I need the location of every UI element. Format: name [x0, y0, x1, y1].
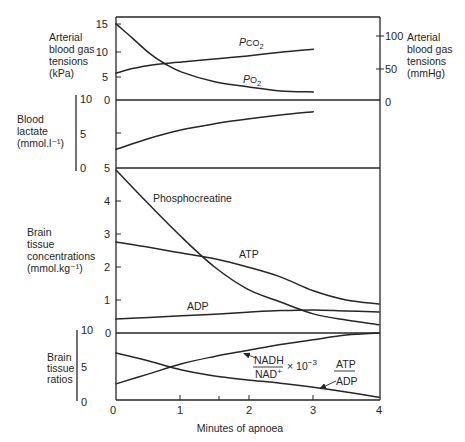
axis-ticks: [76, 24, 384, 401]
pco2-label: PCO2: [239, 36, 264, 51]
atp-adp-label: ATP ADP: [320, 358, 358, 389]
tick-label: 3: [310, 404, 316, 416]
ratios-label-line: ratios: [47, 373, 73, 385]
gas-label-line: blood gas: [49, 43, 95, 55]
mmhg-label-line: blood gas: [407, 43, 453, 55]
concentrations-label-line: tissue: [27, 238, 55, 250]
apnoea-figure: Arterial blood gas tensions (kPa) Blood …: [0, 0, 465, 442]
atp-label: ATP: [239, 248, 259, 260]
concentrations-label-line: (mmol.kg⁻¹): [27, 262, 83, 274]
tick-label: 15: [96, 18, 108, 30]
nadh-nad-label: NADH NAD+ × 10−3: [244, 354, 317, 381]
adp-label: ADP: [187, 300, 209, 312]
tick-label: 100: [385, 30, 403, 42]
mmhg-label-line: Arterial: [407, 31, 440, 43]
tick-label: 10: [96, 46, 108, 58]
multiplier: × 10−3: [287, 358, 317, 372]
lactate-axis-label: Blood lactate (mmol.l⁻¹): [17, 113, 64, 149]
tick-label: 1: [104, 294, 110, 306]
adp-curve: [116, 310, 379, 319]
nadh-numerator: NADH: [254, 354, 284, 366]
mmhg-label-line: (mmHg): [407, 67, 445, 79]
tick-label: 0: [110, 404, 116, 416]
gas-axis-label: Arterial blood gas tensions (kPa): [49, 31, 95, 79]
mmhg-label-line: tensions: [407, 55, 446, 67]
concentrations-label-line: Brain: [27, 226, 52, 238]
concentrations-label-line: concentrations: [27, 250, 95, 262]
lactate-label-line: (mmol.l⁻¹): [17, 137, 64, 149]
tick-label: 5: [102, 71, 108, 83]
x-axis-title: Minutes of apnoea: [197, 422, 284, 434]
tick-label: 5: [104, 162, 110, 174]
mmhg-axis-label: Arterial blood gas tensions (mmHg): [407, 31, 453, 79]
adp-denominator: ADP: [336, 375, 358, 387]
atp-adp-arrow-icon: [320, 381, 336, 389]
ratios-tick-labels: 10 5 0: [81, 324, 93, 408]
phosphocreatine-label: Phosphocreatine: [153, 192, 232, 204]
tick-label: 5: [80, 128, 86, 140]
lactate-curve: [116, 112, 313, 150]
tick-label: 0: [104, 94, 110, 106]
pco2-curve: [116, 49, 313, 73]
nadh-denominator: NAD+: [255, 367, 282, 380]
tick-label: 0: [80, 162, 86, 174]
ratios-axis-label: Brain tissue ratios: [47, 351, 75, 385]
tick-label: 0: [105, 327, 111, 339]
gas-label-line: Arterial: [49, 31, 82, 43]
gas-label-line: (kPa): [49, 67, 74, 79]
gas-tick-labels: 15 10 5 0 100 50 0: [96, 18, 404, 108]
x-tick-labels: 0 1 2 3 4: [110, 404, 382, 416]
concentrations-axis-label: Brain tissue concentrations (mmol.kg⁻¹): [27, 226, 95, 274]
tick-label: 0: [385, 96, 391, 108]
lactate-tick-labels: 10 5 0: [80, 93, 92, 174]
tick-label: 4: [104, 195, 110, 207]
tick-label: 10: [81, 324, 93, 336]
lactate-label-line: lactate: [17, 125, 48, 137]
gas-label-line: tensions: [49, 55, 88, 67]
tick-label: 2: [104, 261, 110, 273]
po2-label: PO2: [243, 73, 261, 88]
tick-label: 10: [80, 93, 92, 105]
tick-label: 2: [246, 404, 252, 416]
lactate-label-line: Blood: [17, 113, 44, 125]
tick-label: 4: [376, 404, 382, 416]
atp-numerator: ATP: [336, 358, 356, 370]
tick-label: 3: [104, 228, 110, 240]
tick-label: 50: [385, 63, 397, 75]
po2-curve: [116, 24, 313, 92]
tick-label: 5: [81, 361, 87, 373]
tick-label: 0: [81, 396, 87, 408]
concentrations-tick-labels: 5 4 3 2 1 0: [104, 162, 111, 339]
tick-label: 1: [177, 404, 183, 416]
